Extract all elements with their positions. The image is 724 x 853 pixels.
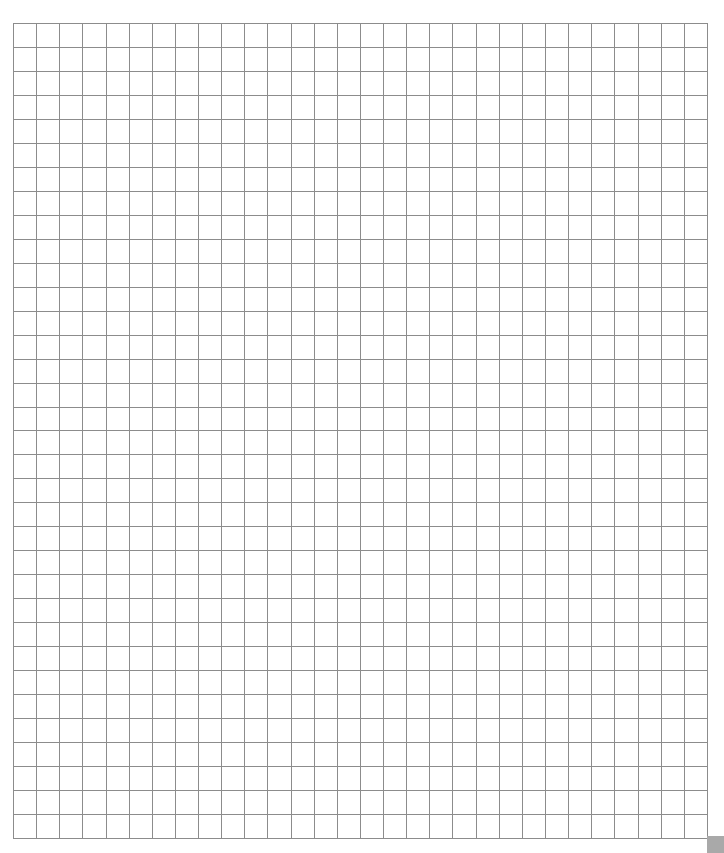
grid	[0, 0, 724, 853]
resize-corner-icon[interactable]	[707, 836, 724, 853]
grid-paper-page	[0, 0, 724, 853]
